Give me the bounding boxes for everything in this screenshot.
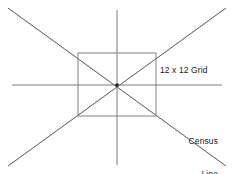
center-point-dot: [116, 84, 119, 87]
census-line-label-line2: Line: [150, 169, 218, 174]
diagram-canvas: 12 x 12 Grid Census Line: [0, 0, 234, 174]
census-line-label: Census Line: [150, 114, 218, 174]
grid-size-label: 12 x 12 Grid: [160, 65, 208, 76]
census-line-label-line1: Census: [150, 136, 218, 147]
